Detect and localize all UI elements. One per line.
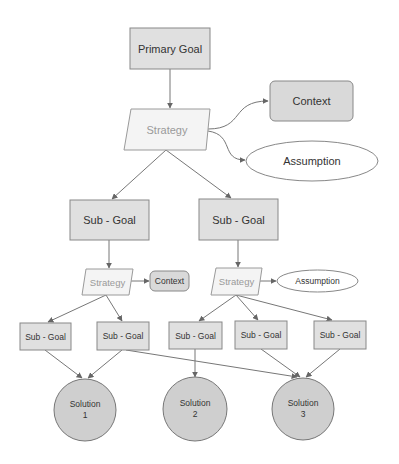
strategy-left-node[interactable]: Strategy [82,269,133,295]
edge-subgoal-2-to-solution-1 [88,350,122,378]
subgoal-5-label: Sub - Goal [320,330,361,340]
assumption-right-label: Assumption [295,276,340,286]
edge-subgoal-5-to-solution-3 [306,349,340,377]
edge-subgoal-2-to-solution-3 [126,350,297,377]
edge-strategy-to-subgoal-left [112,150,166,199]
solution-2-label-line1: Solution [180,398,211,408]
solution-1-node[interactable]: Solution 1 [54,379,116,441]
primary-goal-label: Primary Goal [138,43,202,55]
subgoal-left-label: Sub - Goal [83,214,136,226]
strategy-right-node[interactable]: Strategy [211,268,262,295]
strategy-top-label: Strategy [147,124,188,136]
edge-strategy-right-to-subgoal-4 [236,295,258,320]
subgoal-right-label: Sub - Goal [212,214,265,226]
strategy-right-label: Strategy [219,276,255,287]
solution-1-label-line2: 1 [83,410,88,420]
subgoal-4-label: Sub - Goal [241,330,282,340]
subgoal-left-node[interactable]: Sub - Goal [70,200,149,240]
primary-goal-node[interactable]: Primary Goal [130,28,210,69]
solution-2-label-line2: 2 [193,409,198,419]
subgoal-2-label: Sub - Goal [103,331,144,341]
subgoal-2-node[interactable]: Sub - Goal [97,322,149,350]
solution-3-node[interactable]: Solution 3 [272,378,334,440]
subgoal-4-node[interactable]: Sub - Goal [235,321,287,349]
edge-strategy-left-to-subgoal-2 [106,295,122,321]
context-left-node[interactable]: Context [150,271,189,291]
subgoal-1-node[interactable]: Sub - Goal [20,323,71,350]
strategy-top-node[interactable]: Strategy [124,109,210,150]
edge-strategy-to-context [208,101,268,129]
strategy-left-label: Strategy [90,277,126,288]
solution-3-label-line2: 3 [301,409,306,419]
solution-3-label-line1: Solution [288,398,319,408]
edge-subgoal-4-to-solution-3 [261,349,300,377]
gsn-diagram: Primary Goal Strategy Context Assumption… [0,0,399,464]
edge-strategy-to-subgoal-right [166,150,231,198]
edge-strategy-left-to-subgoal-1 [48,295,106,322]
context-top-node[interactable]: Context [270,81,353,121]
subgoal-5-node[interactable]: Sub - Goal [314,321,366,349]
context-top-label: Context [293,95,331,107]
edge-subgoal-1-to-solution-1 [45,350,82,378]
subgoal-3-node[interactable]: Sub - Goal [169,322,222,349]
assumption-top-node[interactable]: Assumption [246,141,378,181]
assumption-right-node[interactable]: Assumption [277,270,358,292]
subgoal-3-label: Sub - Goal [175,331,216,341]
solution-1-label-line1: Solution [70,399,101,409]
solution-2-node[interactable]: Solution 2 [163,377,227,441]
subgoal-1-label: Sub - Goal [25,332,66,342]
edge-strategy-right-to-subgoal-5 [236,295,332,320]
context-left-label: Context [155,276,185,286]
assumption-top-label: Assumption [283,155,340,167]
edge-strategy-right-to-subgoal-3 [199,295,236,321]
edge-strategy-to-assumption [208,131,245,160]
subgoal-right-node[interactable]: Sub - Goal [199,199,278,240]
